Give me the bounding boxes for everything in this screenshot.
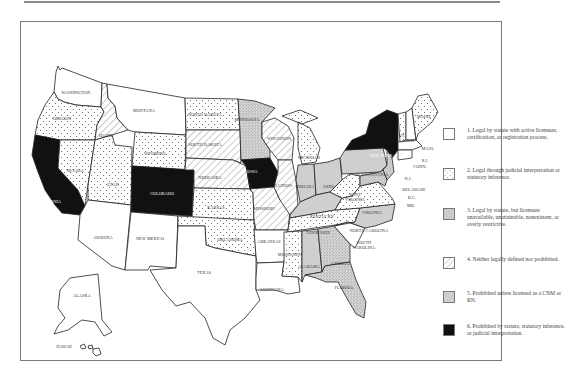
label-new-hampshire: N.H. <box>407 138 416 143</box>
legend-item-6: 6. Prohibited by statute, statutory infe… <box>443 324 568 364</box>
legend-swatch-dots <box>443 168 455 180</box>
label-wyoming: WYOMING <box>144 151 166 156</box>
legend-item-1: 1. Legal by statute with active licensur… <box>443 128 568 168</box>
label-missouri: MISSOURI <box>254 206 275 211</box>
label-nebraska: NEBRASKA <box>198 175 221 180</box>
label-north-carolina: NORTH CAROLINA <box>350 228 388 233</box>
label-alabama: ALABAMA <box>298 264 320 269</box>
label-wisconsin: WISCONSIN <box>267 136 291 141</box>
label-new-york: NEW YORK <box>369 153 392 158</box>
label-kentucky: KENTUCKY <box>310 214 334 219</box>
label-texas: TEXAS <box>197 270 212 275</box>
label-alaska: ALASKA <box>73 293 91 298</box>
label-tennessee: TENNESSEE <box>306 230 331 235</box>
label-california: CALIFORNIA <box>35 199 61 204</box>
state-hawaii[interactable] <box>80 344 101 356</box>
legend-label-4: 4. Neither legally defined nor prohibite… <box>467 256 567 263</box>
legend-swatch-hatch <box>443 257 455 269</box>
legend-swatch-gray <box>443 291 455 303</box>
legend-label-5: 5. Prohibited unless licensed as a CNM o… <box>467 290 567 304</box>
label-ohio: OHIO <box>324 184 335 189</box>
state-pennsylvania[interactable] <box>340 148 387 174</box>
legend-label-3: 3. Legal by statute, but licensure unava… <box>467 207 567 228</box>
label-nevada: NEVADA <box>66 168 84 173</box>
label-minnesota: MINNESOTA <box>234 117 259 122</box>
label-maine: MAINE <box>417 114 432 119</box>
label-rhode-island: R.I. <box>422 158 429 163</box>
label-massachusetts: MASS. <box>422 146 435 151</box>
state-arkansas[interactable] <box>254 230 288 263</box>
label-south-dakota: SOUTH DAKOTA <box>188 142 222 147</box>
label-hawaii: HAWAII <box>56 344 72 349</box>
state-utah[interactable] <box>88 135 132 205</box>
label-virginia: VIRGINIA <box>362 210 382 215</box>
label-kansas: KANSAS <box>207 205 225 210</box>
legend-swatch-black <box>443 324 455 336</box>
label-delaware: DELAWARE <box>402 187 426 192</box>
label-mississippi: MISSISSIPPI <box>278 252 303 257</box>
label-iowa: IOWA <box>246 169 257 174</box>
label-illinois: ILLINOIS <box>274 183 293 188</box>
state-new-mexico[interactable] <box>125 212 178 270</box>
label-connecticut: CONN. <box>413 164 426 169</box>
legend-label-2: 2. Legal through judicial interpretation… <box>467 167 567 181</box>
label-new-mexico: NEW MEXICO <box>136 236 164 241</box>
label-west-virginia-2: VIRGINIA <box>345 197 365 202</box>
label-florida: FLORIDA <box>335 285 354 290</box>
label-oregon: OREGON <box>53 116 71 121</box>
legend-swatch-stipple <box>443 208 455 220</box>
label-arkansas: ARKANSAS <box>257 239 281 244</box>
label-south-carolina-2: CAROLINA <box>353 245 375 250</box>
legend-item-3: 3. Legal by statute, but licensure unava… <box>443 208 568 248</box>
label-pennsylvania: PENNSYLVANIA <box>356 172 389 177</box>
label-arizona: ARIZONA <box>93 235 113 240</box>
label-louisiana: LOUISIANA <box>260 287 284 292</box>
label-new-jersey: N.J. <box>404 176 411 181</box>
label-georgia: GEORGIA <box>331 261 351 266</box>
state-kansas[interactable] <box>192 188 254 220</box>
label-michigan: MICHIGAN <box>298 155 320 160</box>
label-north-dakota: NORTH DAKOTA <box>188 112 222 117</box>
label-maryland: MD. <box>407 203 415 208</box>
label-colorado: COLORADO <box>150 191 174 196</box>
legend-swatch-blank <box>443 128 455 140</box>
label-montana: MONTANA <box>133 108 155 113</box>
legend-label-1: 1. Legal by statute with active licensur… <box>467 127 567 141</box>
label-dc: D.C. <box>408 195 416 200</box>
label-washington: WASHINGTON <box>62 90 91 95</box>
state-alaska[interactable] <box>54 274 112 336</box>
legend-label-6: 6. Prohibited by statute, statutory infe… <box>467 323 567 337</box>
state-connecticut-ri[interactable] <box>398 150 412 160</box>
label-idaho: IDAHO <box>99 133 113 138</box>
legend-item-2: 2. Legal through judicial interpretation… <box>443 168 568 208</box>
label-indiana: INDIANA <box>296 184 315 189</box>
label-utah: UTAH <box>107 182 119 187</box>
label-vermont: VT. <box>399 133 406 138</box>
label-oklahoma: OKLAHOMA <box>217 237 242 242</box>
